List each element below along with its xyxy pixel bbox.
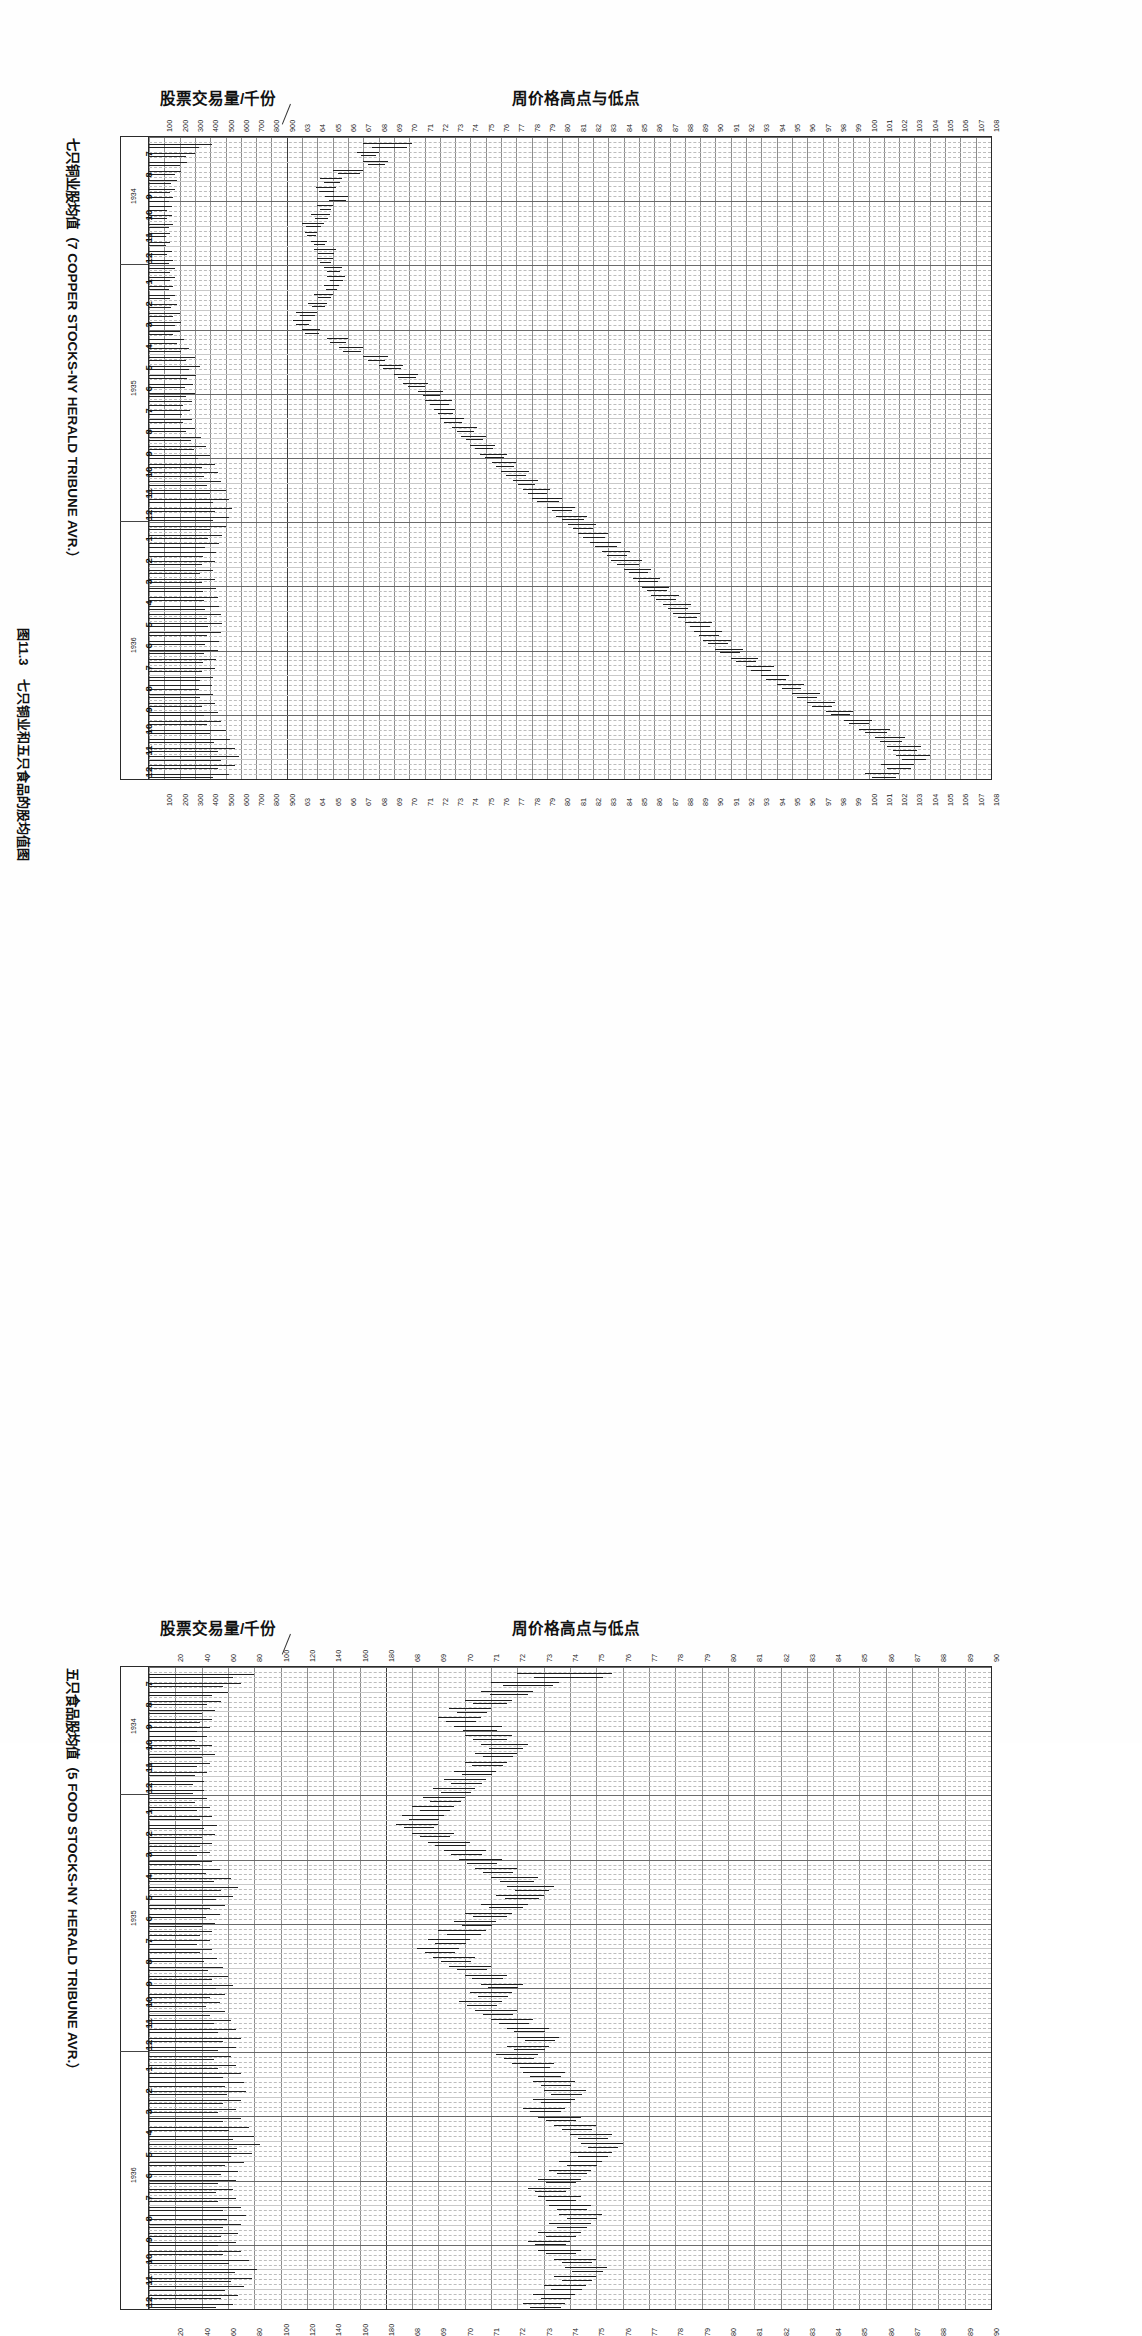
axis-tick-label: 74 xyxy=(468,106,476,113)
axis-tick-label: 90 xyxy=(713,106,721,113)
axis-tick-label: 71 xyxy=(423,106,431,113)
price-high-low-bar xyxy=(440,418,464,419)
grid-line-horizontal xyxy=(149,1988,991,1989)
month-label: 10 xyxy=(142,2246,153,2256)
volume-bar xyxy=(149,1731,197,1732)
price-high-low-bar xyxy=(465,1975,507,1976)
volume-bar xyxy=(149,289,169,290)
price-high-low-bar xyxy=(673,613,701,614)
volume-bar xyxy=(149,2011,225,2012)
month-label: 8 xyxy=(142,159,147,169)
grid-line-horizontal xyxy=(149,1889,991,1890)
price-high-low-bar xyxy=(499,2023,529,2024)
axis-tick-label: 63 xyxy=(300,780,308,787)
volume-bar xyxy=(149,2082,244,2083)
volume-bar xyxy=(149,360,186,361)
axis-tick-label: 87 xyxy=(910,1636,918,1643)
price-high-low-bar xyxy=(865,732,887,733)
volume-bar xyxy=(149,2219,227,2220)
price-high-low-bar xyxy=(590,542,621,543)
volume-bar xyxy=(149,1763,210,1764)
volume-bar xyxy=(149,694,213,695)
axis-tick-label: 78 xyxy=(673,1636,681,1643)
axis-tick-label: 75 xyxy=(594,1636,602,1643)
month-label: 7 xyxy=(142,652,147,662)
price-high-low-bar xyxy=(403,383,427,384)
axis-tick-label: 108 xyxy=(989,106,1001,113)
grid-line-horizontal xyxy=(149,2062,991,2063)
axis-tick-label: 700 xyxy=(254,106,266,113)
volume-bar xyxy=(149,2162,244,2163)
volume-bar xyxy=(149,659,216,660)
price-high-low-bar xyxy=(541,2298,571,2299)
volume-bar xyxy=(149,2136,254,2137)
price-high-low-bar xyxy=(363,161,387,162)
month-label: 8 xyxy=(142,1689,147,1699)
grid-line-horizontal xyxy=(149,581,991,582)
price-high-low-bar xyxy=(538,2250,580,2251)
price-high-low-bar xyxy=(530,2076,560,2077)
volume-bar xyxy=(149,748,235,749)
price-high-low-bar xyxy=(361,155,376,156)
volume-bar xyxy=(149,2002,220,2003)
grid-line-horizontal xyxy=(149,705,991,706)
axis-tick-label: 105 xyxy=(943,780,955,787)
grid-line-horizontal xyxy=(149,2240,991,2241)
volume-bar xyxy=(149,2174,221,2175)
grid-line-horizontal xyxy=(149,453,991,454)
volume-bar xyxy=(149,2059,214,2060)
grid-line-vertical xyxy=(991,137,992,779)
price-high-low-bar xyxy=(865,773,899,774)
price-high-low-bar xyxy=(736,661,756,662)
volume-bar xyxy=(149,369,189,370)
price-high-low-bar xyxy=(490,1694,528,1695)
price-high-low-bar xyxy=(668,608,688,609)
price-high-low-bar xyxy=(457,1969,487,1970)
volume-bar xyxy=(149,1926,202,1927)
price-high-low-bar xyxy=(418,391,442,392)
price-high-low-bar xyxy=(528,2188,570,2189)
volume-bar xyxy=(149,1994,225,1995)
month-label: 12 xyxy=(142,2289,153,2299)
price-high-low-bar xyxy=(557,2209,587,2210)
price-high-low-bar xyxy=(565,2267,607,2268)
price-high-low-bar xyxy=(782,688,802,689)
volume-bar xyxy=(149,2047,236,2048)
volume-bar xyxy=(149,768,218,769)
price-high-low-bar xyxy=(651,595,679,596)
volume-bar xyxy=(149,449,194,450)
volume-bar xyxy=(149,481,221,482)
volume-bar xyxy=(149,733,210,734)
price-high-low-bar xyxy=(551,2094,581,2095)
volume-bar xyxy=(149,526,226,527)
grid-line-horizontal xyxy=(149,735,991,736)
volume-bar xyxy=(149,653,204,654)
grid-line-horizontal xyxy=(149,1815,991,1816)
axis-tick-label: 77 xyxy=(514,106,522,113)
price-high-low-bar xyxy=(694,631,722,632)
price-high-low-bar xyxy=(656,599,676,600)
axis-tick-label: 78 xyxy=(673,2310,681,2317)
volume-bar xyxy=(149,556,203,557)
price-high-low-bar xyxy=(525,2040,555,2041)
price-high-low-bar xyxy=(514,2049,544,2050)
axis-tick-label: 400 xyxy=(208,780,220,787)
axis-tick-label: 101 xyxy=(882,780,894,787)
axis-tick-label: 80 xyxy=(726,1636,734,1643)
price-high-low-bar xyxy=(478,1996,508,1997)
price-high-low-bar xyxy=(546,2182,576,2183)
volume-bar xyxy=(149,2144,260,2145)
grid-line-horizontal xyxy=(149,1786,991,1787)
month-label: 5 xyxy=(142,609,147,619)
axis-tick-label: 84 xyxy=(622,780,630,787)
axis-tick-label: 89 xyxy=(963,1636,971,1643)
grid-line-horizontal xyxy=(149,1860,991,1861)
price-high-low-bar xyxy=(567,2218,597,2219)
axis-tick-label: 73 xyxy=(542,2310,550,2317)
price-high-low-bar xyxy=(578,533,609,534)
price-high-low-bar xyxy=(425,400,453,401)
axis-tick-label: 85 xyxy=(857,2310,865,2317)
grid-line-horizontal xyxy=(149,1953,991,1954)
month-label: 7 xyxy=(142,395,147,405)
price-high-low-bar xyxy=(475,1753,517,1754)
